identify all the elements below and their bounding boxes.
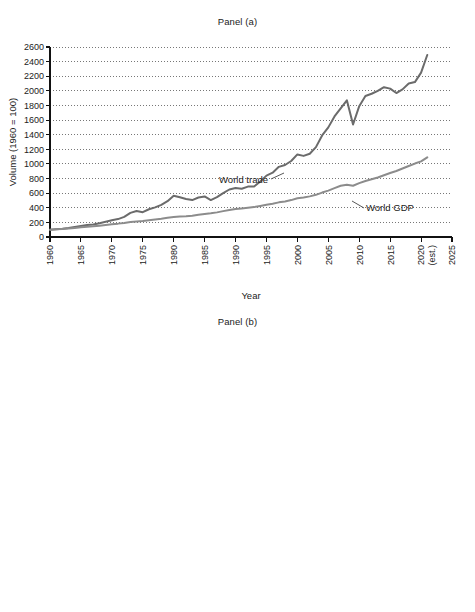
annotation-world-trade: World trade xyxy=(219,174,268,185)
x-tick-label: 1970 xyxy=(107,245,117,265)
x-tick-label: 1965 xyxy=(76,245,86,265)
annotation-leader-line xyxy=(271,173,284,179)
x-tick-label: 1960 xyxy=(45,245,55,265)
x-axis-label: Year xyxy=(241,290,260,300)
y-tick-label: 1800 xyxy=(24,101,44,111)
x-tick-label: 1975 xyxy=(138,245,148,265)
x-tick-label: 1995 xyxy=(262,245,272,265)
x-tick-label: 1980 xyxy=(169,245,179,265)
y-tick-label: 400 xyxy=(29,203,44,213)
y-tick-label: 800 xyxy=(29,174,44,184)
y-axis-label: Volume (1960 = 100) xyxy=(7,98,18,186)
annotation-world-gdp: World GDP xyxy=(366,202,414,213)
y-tick-label: 1600 xyxy=(24,115,44,125)
y-tick-label: 2400 xyxy=(24,57,44,67)
x-tick-label: 2010 xyxy=(355,245,365,265)
panel-b: Panel (b) 024681012141618201950195519601… xyxy=(0,300,475,612)
x-tick-label: 2025 xyxy=(447,245,457,265)
x-tick-label: 1985 xyxy=(200,245,210,265)
y-tick-label: 1200 xyxy=(24,145,44,155)
y-tick-label: 1400 xyxy=(24,130,44,140)
y-tick-label: 2200 xyxy=(24,71,44,81)
x-tick-label: 1990 xyxy=(231,245,241,265)
y-tick-label: 600 xyxy=(29,188,44,198)
x-tick-label: 2000 xyxy=(293,245,303,265)
x-tick-label: 2005 xyxy=(324,245,334,265)
panel-b-plot: 0246810121416182019501955196019651970197… xyxy=(0,300,475,612)
y-tick-label: 1000 xyxy=(24,159,44,169)
x-tick-label: 2015 xyxy=(386,245,396,265)
figure-root: Panel (a) 020040060080010001200140016001… xyxy=(0,0,475,612)
y-tick-label: 2600 xyxy=(24,42,44,52)
y-tick-label: 200 xyxy=(29,218,44,228)
x-tick-label: 2020 xyxy=(416,245,426,265)
y-tick-label: 0 xyxy=(39,232,44,242)
panel-a-plot: 0200400600800100012001400160018002000220… xyxy=(0,0,475,300)
panel-a: Panel (a) 020040060080010001200140016001… xyxy=(0,0,475,300)
series-line xyxy=(50,157,427,229)
annotation-leader-line xyxy=(352,201,364,208)
y-tick-label: 2000 xyxy=(24,86,44,96)
x-tick-label: (est.) xyxy=(427,245,437,266)
